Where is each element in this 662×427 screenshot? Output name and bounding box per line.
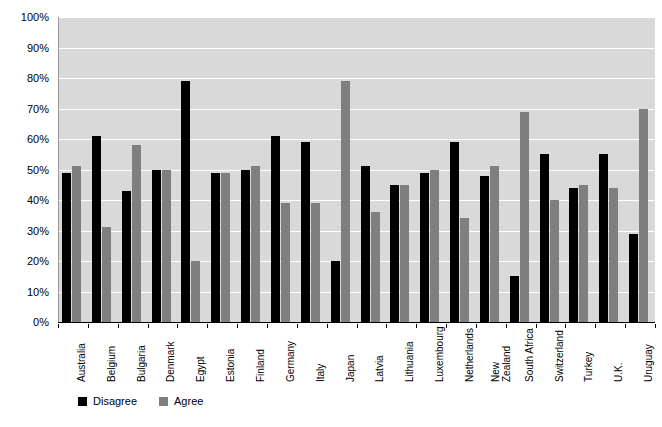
- bar-disagree: [629, 234, 638, 322]
- bar-group: [149, 17, 179, 322]
- x-axis-tick-label: Germany: [286, 322, 297, 382]
- bar-group: [208, 17, 238, 322]
- legend-item-agree[interactable]: Agree: [159, 396, 203, 407]
- y-axis-tick-label: 50%: [27, 165, 49, 176]
- x-axis-labels: AustraliaBelgiumBulgariaDenmarkEgyptEsto…: [58, 324, 655, 386]
- bar-disagree: [540, 154, 549, 322]
- x-axis-tick: [386, 324, 387, 328]
- bar-group: [537, 17, 567, 322]
- x-axis-tick-label: Estonia: [226, 322, 237, 382]
- bar-disagree: [331, 261, 340, 322]
- bar-group: [596, 17, 626, 322]
- x-axis-tick-label: U.K.: [614, 322, 625, 382]
- x-axis-tick: [446, 324, 447, 328]
- x-axis-tick-label: Netherlands: [465, 322, 476, 382]
- legend-item-disagree[interactable]: Disagree: [78, 396, 137, 407]
- bar-agree: [311, 203, 320, 322]
- bar-disagree: [450, 142, 459, 322]
- x-axis-tick: [118, 324, 119, 328]
- y-axis: 100%90%80%70%60%50%40%30%20%10%0%: [0, 0, 54, 340]
- bar-agree: [132, 145, 141, 322]
- y-axis-tick-label: 20%: [27, 256, 49, 267]
- bar-agree: [490, 166, 499, 322]
- x-axis-tick: [207, 324, 208, 328]
- bar-agree: [102, 227, 111, 322]
- bar-agree: [72, 166, 81, 322]
- bar-disagree: [480, 176, 489, 322]
- x-axis-tick: [536, 324, 537, 328]
- x-axis-tick: [416, 324, 417, 328]
- bar-group: [358, 17, 388, 322]
- legend-swatch-icon: [78, 397, 87, 406]
- x-axis-tick: [267, 324, 268, 328]
- bar-agree: [281, 203, 290, 322]
- legend-label: Agree: [174, 396, 203, 407]
- bar-agree: [460, 218, 469, 322]
- bar-agree: [341, 81, 350, 322]
- y-axis-tick-label: 10%: [27, 287, 49, 298]
- x-axis-tick-label: Lithuania: [405, 322, 416, 382]
- bar-group: [238, 17, 268, 322]
- bar-disagree: [271, 136, 280, 322]
- bar-disagree: [122, 191, 131, 322]
- bar-group: [178, 17, 208, 322]
- x-axis-tick: [655, 324, 656, 328]
- x-axis-tick: [148, 324, 149, 328]
- y-axis-tick-label: 30%: [27, 226, 49, 237]
- bar-group: [268, 17, 298, 322]
- bar-group: [59, 17, 89, 322]
- x-axis-tick-label: Bulgaria: [137, 322, 148, 382]
- bar-disagree: [510, 276, 519, 322]
- bar-agree: [251, 166, 260, 322]
- bar-group: [477, 17, 507, 322]
- x-axis-tick-label: Switzerland: [555, 322, 566, 382]
- bar-agree: [430, 170, 439, 323]
- y-axis-tick-label: 70%: [27, 104, 49, 115]
- bar-disagree: [361, 166, 370, 322]
- bar-disagree: [390, 185, 399, 322]
- x-axis-tick-label: South Africa: [525, 322, 536, 382]
- bar-disagree: [420, 173, 429, 322]
- x-axis-tick-label: New Zealand: [491, 322, 512, 382]
- bar-disagree: [599, 154, 608, 322]
- x-axis-tick: [506, 324, 507, 328]
- bar-group: [119, 17, 149, 322]
- bar-disagree: [62, 173, 71, 322]
- x-axis-tick: [297, 324, 298, 328]
- bar-agree: [550, 200, 559, 322]
- bar-group: [89, 17, 119, 322]
- y-axis-tick-label: 40%: [27, 195, 49, 206]
- bar-group: [387, 17, 417, 322]
- x-axis-tick-label: Turkey: [584, 322, 595, 382]
- bar-agree: [371, 212, 380, 322]
- legend-label: Disagree: [93, 396, 137, 407]
- x-axis-tick-label: Japan: [346, 322, 357, 382]
- legend-swatch-icon: [159, 397, 168, 406]
- x-axis-tick: [357, 324, 358, 328]
- bar-disagree: [569, 188, 578, 322]
- x-axis-tick: [177, 324, 178, 328]
- x-axis-tick: [237, 324, 238, 328]
- bar-disagree: [211, 173, 220, 322]
- x-axis-tick: [327, 324, 328, 328]
- x-axis-tick-label: Italy: [316, 322, 327, 382]
- x-axis-tick-label: Australia: [77, 322, 88, 382]
- legend: DisagreeAgree: [78, 396, 203, 407]
- bar-chart: 100%90%80%70%60%50%40%30%20%10%0% Austra…: [0, 0, 662, 427]
- x-axis-tick-label: Finland: [256, 322, 267, 382]
- bar-agree: [639, 109, 648, 323]
- x-axis-tick: [595, 324, 596, 328]
- bar-disagree: [152, 170, 161, 323]
- x-axis-tick: [88, 324, 89, 328]
- x-axis-tick: [625, 324, 626, 328]
- bar-group: [626, 17, 655, 322]
- bars-layer: [59, 17, 655, 322]
- x-axis-tick: [58, 324, 59, 328]
- bar-group: [507, 17, 537, 322]
- x-axis-tick: [565, 324, 566, 328]
- bar-disagree: [241, 170, 250, 323]
- bar-agree: [162, 170, 171, 323]
- y-axis-tick-label: 100%: [21, 12, 49, 23]
- bar-agree: [221, 173, 230, 322]
- bar-group: [447, 17, 477, 322]
